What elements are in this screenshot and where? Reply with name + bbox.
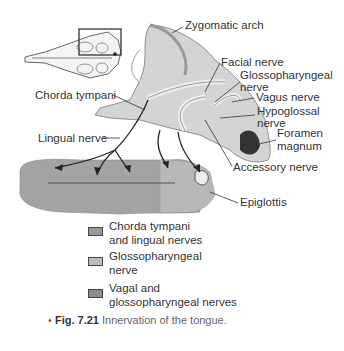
- legend-item-chorda-lingual: Chorda tympani and lingual nerves: [88, 220, 202, 247]
- label-foramen-magnum-line2: magnum: [277, 140, 322, 153]
- legend-item-glossopharyngeal: Glossopharyngeal nerve: [88, 250, 202, 277]
- label-lingual-nerve: Lingual nerve: [38, 132, 107, 145]
- tongue: [20, 159, 215, 214]
- legend-text: Vagal and glossopharyngeal nerves: [109, 282, 237, 309]
- legend-line1: Chorda tympani: [109, 220, 202, 234]
- legend-line2: and lingual nerves: [109, 234, 202, 248]
- label-vagus-nerve: Vagus nerve: [256, 91, 320, 104]
- label-accessory-nerve: Accessory nerve: [233, 161, 318, 174]
- legend-swatch: [88, 257, 103, 266]
- legend-item-vagal-glossopharyngeal: Vagal and glossopharyngeal nerves: [88, 282, 237, 309]
- legend-line2: nerve: [109, 264, 202, 278]
- legend-line1: Vagal and: [109, 282, 237, 296]
- legend-text: Glossopharyngeal nerve: [109, 250, 202, 277]
- label-facial-nerve: Facial nerve: [221, 56, 284, 69]
- legend-line2: glossopharyngeal nerves: [109, 296, 237, 310]
- figure-caption: • Fig. 7.21 Innervation of the tongue.: [48, 314, 227, 326]
- label-zygomatic-arch: Zygomatic arch: [185, 19, 264, 32]
- caption-bullet: •: [48, 314, 52, 326]
- caption-text: Innervation of the tongue.: [102, 314, 227, 326]
- legend-swatch: [88, 227, 103, 236]
- caption-number: Fig. 7.21: [55, 314, 99, 326]
- label-foramen-magnum-line1: Foramen: [277, 127, 323, 140]
- skull-inset-icon: [25, 29, 121, 78]
- label-epiglottis: Epiglottis: [240, 196, 287, 209]
- label-chorda-tympani: Chorda tympani: [35, 89, 116, 102]
- legend-swatch: [88, 289, 103, 298]
- legend-line1: Glossopharyngeal: [109, 250, 202, 264]
- legend-text: Chorda tympani and lingual nerves: [109, 220, 202, 247]
